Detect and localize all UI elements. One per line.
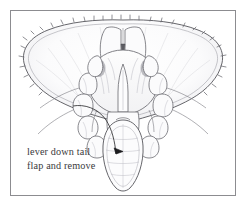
caption-line-2: flap and remove <box>27 159 137 173</box>
instruction-caption: lever down tail flap and remove <box>27 145 137 172</box>
crab-ventral-illustration <box>0 0 246 207</box>
caption-line-1: lever down tail <box>27 145 137 159</box>
figure-page: lever down tail flap and remove <box>0 0 246 207</box>
